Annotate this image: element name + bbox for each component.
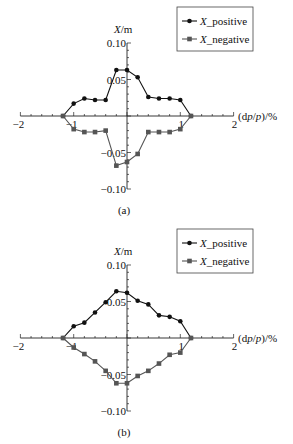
legend-label: X_positive bbox=[199, 15, 247, 27]
data-point-marker bbox=[71, 127, 76, 132]
data-point-marker bbox=[146, 95, 151, 100]
panel-label: (a) bbox=[118, 204, 131, 217]
data-point-marker bbox=[114, 163, 119, 168]
data-point-marker bbox=[189, 336, 194, 341]
data-point-marker bbox=[125, 381, 130, 386]
legend-marker-square-icon bbox=[187, 259, 192, 264]
x-tick-label: 2 bbox=[232, 340, 238, 352]
legend-label: X_negative bbox=[199, 255, 250, 267]
data-point-marker bbox=[146, 130, 151, 135]
data-point-marker bbox=[71, 101, 76, 106]
x-tick-label: −2 bbox=[13, 340, 25, 352]
data-point-marker bbox=[61, 114, 66, 119]
data-point-marker bbox=[82, 96, 87, 101]
data-point-marker bbox=[93, 359, 98, 364]
data-point-marker bbox=[157, 130, 162, 135]
chart-legend: X_positiveX_negative bbox=[177, 7, 253, 51]
data-point-marker bbox=[114, 381, 119, 386]
legend-marker-circle-icon bbox=[187, 19, 192, 24]
data-point-marker bbox=[157, 96, 162, 101]
x-axis-title: (dp/p)/% bbox=[238, 110, 277, 123]
data-point-marker bbox=[93, 130, 98, 135]
data-point-marker bbox=[125, 68, 130, 73]
y-axis-title: X/m bbox=[113, 245, 133, 257]
legend-label: X_negative bbox=[199, 33, 250, 45]
data-point-marker bbox=[157, 313, 162, 318]
data-point-marker bbox=[103, 128, 108, 133]
data-point-marker bbox=[61, 336, 66, 341]
data-point-marker bbox=[167, 96, 172, 101]
data-point-marker bbox=[178, 319, 183, 324]
data-point-marker bbox=[178, 350, 183, 355]
data-point-marker bbox=[135, 298, 140, 303]
data-point-marker bbox=[178, 127, 183, 132]
data-point-marker bbox=[82, 130, 87, 135]
chart-legend: X_positiveX_negative bbox=[177, 229, 253, 273]
data-point-marker bbox=[93, 98, 98, 103]
x-tick-label: 1 bbox=[179, 340, 185, 352]
y-tick-label: 0.10 bbox=[107, 259, 127, 271]
data-point-marker bbox=[146, 302, 151, 307]
data-point-marker bbox=[93, 310, 98, 315]
y-tick-label: −0.10 bbox=[101, 405, 127, 417]
data-point-marker bbox=[167, 315, 172, 320]
data-point-marker bbox=[167, 352, 172, 357]
x-axis-title: (dp/p)/% bbox=[238, 332, 277, 345]
data-point-marker bbox=[125, 160, 130, 165]
data-point-marker bbox=[103, 300, 108, 305]
data-point-marker bbox=[114, 68, 119, 73]
data-point-marker bbox=[103, 369, 108, 374]
data-point-marker bbox=[135, 152, 140, 157]
data-point-marker bbox=[71, 345, 76, 350]
chart-b-plot: −2−1120.100.05−0.05−0.10X/m(dp/p)/%X_pos… bbox=[0, 222, 293, 444]
data-point-marker bbox=[125, 290, 130, 295]
data-point-marker bbox=[103, 98, 108, 103]
data-point-marker bbox=[189, 114, 194, 119]
panel-label: (b) bbox=[118, 426, 131, 439]
data-point-marker bbox=[71, 324, 76, 329]
x-tick-label: −2 bbox=[13, 118, 25, 130]
y-tick-label: −0.10 bbox=[101, 183, 127, 195]
chart-panel-b: −2−1120.100.05−0.05−0.10X/m(dp/p)/%X_pos… bbox=[0, 222, 293, 444]
data-point-marker bbox=[135, 374, 140, 379]
y-axis-title: X/m bbox=[113, 23, 133, 35]
data-point-marker bbox=[146, 369, 151, 374]
data-point-marker bbox=[178, 98, 183, 103]
legend-marker-circle-icon bbox=[187, 241, 192, 246]
chart-a-plot: −2−1120.100.05−0.05−0.10X/m(dp/p)/%X_pos… bbox=[0, 0, 293, 222]
data-point-marker bbox=[114, 289, 119, 294]
data-point-marker bbox=[157, 361, 162, 366]
data-point-marker bbox=[82, 352, 87, 357]
chart-panel-a: −2−1120.100.05−0.05−0.10X/m(dp/p)/%X_pos… bbox=[0, 0, 293, 222]
y-tick-label: 0.10 bbox=[107, 37, 127, 49]
y-tick-label: 0.05 bbox=[107, 74, 127, 86]
legend-marker-square-icon bbox=[187, 37, 192, 42]
x-tick-label: 2 bbox=[232, 118, 238, 130]
data-point-marker bbox=[167, 130, 172, 135]
data-point-marker bbox=[82, 320, 87, 325]
legend-label: X_positive bbox=[199, 237, 247, 249]
data-point-marker bbox=[135, 75, 140, 80]
